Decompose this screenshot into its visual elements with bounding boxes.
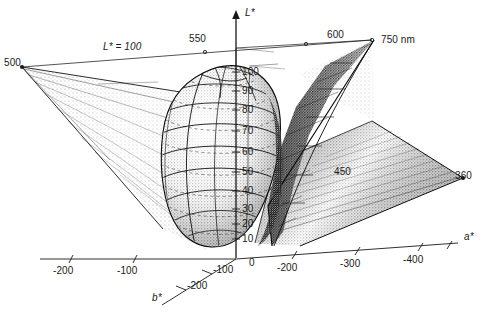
figure-root: L* a* b* L* = 100 500 550 600 750 nm 450… [0, 0, 484, 317]
l-tick-100: 100 [242, 66, 259, 77]
a-tick-minus400: -400 [403, 254, 423, 265]
a-tick-minus200: -200 [277, 262, 297, 273]
l-axis-label: L* [245, 7, 255, 18]
l-tick-30: 30 [242, 203, 253, 214]
l-tick-20: 20 [242, 218, 253, 229]
l-tick-80: 80 [242, 104, 253, 115]
wavelength-500-label: 500 [4, 57, 21, 68]
wavelength-550-label: 550 [189, 33, 206, 44]
wavelength-750-label: 750 nm [381, 34, 415, 45]
l-axis-arrow [232, 10, 240, 19]
b-tick-minus200: -200 [187, 280, 207, 291]
left-tick-minus100: -100 [117, 265, 137, 276]
left-tick-minus200: -200 [53, 265, 73, 276]
b-tick-minus100: -100 [213, 264, 233, 275]
a-tick-minus300: -300 [340, 258, 360, 269]
l-tick-60: 60 [242, 146, 253, 157]
l-tick-90: 90 [242, 85, 253, 96]
l-tick-10: 10 [242, 233, 253, 244]
b-axis-label: b* [152, 292, 162, 303]
wavelength-450-label: 450 [334, 166, 351, 177]
a-axis-label: a* [464, 231, 474, 242]
l-tick-40: 40 [242, 185, 253, 196]
l-tick-50: 50 [242, 166, 253, 177]
l-tick-70: 70 [242, 125, 253, 136]
wavelength-600-label: 600 [327, 29, 344, 40]
origin-label: 0 [249, 257, 255, 268]
lstar-100-label: L* = 100 [103, 41, 141, 52]
a-axis-line [236, 243, 458, 259]
wavelength-360-label: 360 [455, 170, 472, 181]
